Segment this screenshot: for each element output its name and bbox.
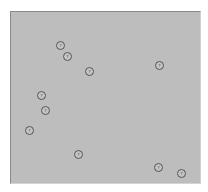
circle-marker[interactable]: ? <box>37 91 46 100</box>
marker-label: ? <box>66 55 68 59</box>
marker-label: ? <box>180 172 182 176</box>
marker-label: ? <box>77 153 79 157</box>
circle-marker[interactable]: ? <box>25 126 34 135</box>
marker-label: ? <box>59 44 61 48</box>
circle-marker[interactable]: ? <box>56 41 65 50</box>
marker-label: ? <box>44 109 46 113</box>
circle-marker[interactable]: ? <box>177 169 186 178</box>
circle-marker[interactable]: ? <box>155 61 164 70</box>
circle-marker[interactable]: ? <box>74 150 83 159</box>
circle-marker[interactable]: ? <box>41 106 50 115</box>
circle-marker[interactable]: ? <box>154 163 163 172</box>
circle-marker[interactable]: ? <box>63 52 72 61</box>
marker-label: ? <box>40 94 42 98</box>
marker-label: ? <box>88 70 90 74</box>
marker-label: ? <box>158 64 160 68</box>
circle-marker[interactable]: ? <box>85 67 94 76</box>
marker-label: ? <box>28 129 30 133</box>
marker-label: ? <box>157 166 159 170</box>
